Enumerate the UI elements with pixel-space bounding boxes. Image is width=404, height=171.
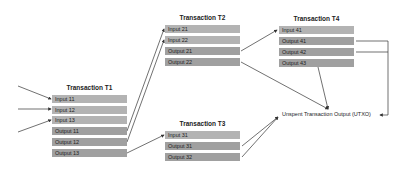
transaction-t1-title: Transaction T1 <box>52 84 127 91</box>
output-11: Output 11 <box>52 127 127 135</box>
transaction-t2-title: Transaction T2 <box>165 14 240 21</box>
input-11: Input 11 <box>52 95 127 103</box>
utxo-label: Unspent Transaction Output (UTXO) <box>282 111 371 117</box>
input-31: Input 31 <box>165 131 240 139</box>
output-43: Output 43 <box>279 59 354 67</box>
output-12: Output 12 <box>52 138 127 146</box>
output-32: Output 32 <box>165 153 240 161</box>
output-41: Output 41 <box>279 37 354 45</box>
output-42: Output 42 <box>279 48 354 56</box>
input-21: Input 21 <box>165 25 240 33</box>
input-22: Input 22 <box>165 36 240 44</box>
input-12: Input 12 <box>52 106 127 114</box>
transaction-t4-title: Transaction T4 <box>279 15 354 22</box>
output-31: Output 31 <box>165 142 240 150</box>
output-13: Output 13 <box>52 149 127 157</box>
input-13: Input 13 <box>52 116 127 124</box>
output-22: Output 22 <box>165 58 240 66</box>
input-41: Input 41 <box>279 26 354 34</box>
output-21: Output 21 <box>165 47 240 55</box>
transaction-t3-title: Transaction T3 <box>165 120 240 127</box>
